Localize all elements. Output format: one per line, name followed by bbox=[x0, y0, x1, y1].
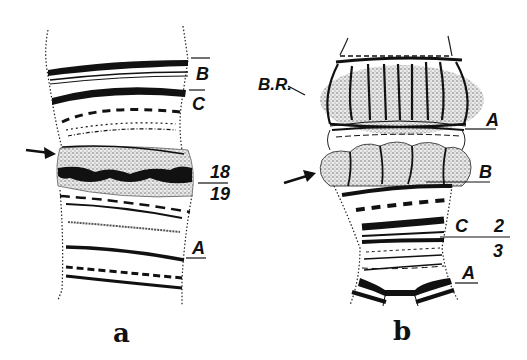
label-a-A: A bbox=[191, 238, 205, 258]
label-a-C: C bbox=[192, 94, 206, 114]
label-a-19: 19 bbox=[210, 184, 230, 204]
arrow-icon bbox=[26, 147, 56, 159]
label-b-A-top: A bbox=[485, 110, 499, 130]
label-a-B: B bbox=[196, 64, 209, 84]
label-b-3: 3 bbox=[493, 241, 503, 261]
label-b-2: 2 bbox=[493, 216, 504, 236]
panel-caption-a: a bbox=[113, 318, 130, 348]
label-a-18: 18 bbox=[210, 162, 230, 182]
panel-b-chromosome bbox=[284, 36, 510, 306]
label-b-BR: B.R. bbox=[258, 75, 292, 94]
arrow-icon bbox=[284, 170, 316, 183]
label-b-B: B bbox=[479, 162, 492, 182]
chromosome-figure: B C 18 19 A bbox=[0, 0, 527, 360]
label-b-A-bottom: A bbox=[461, 263, 475, 283]
label-b-C: C bbox=[455, 216, 469, 236]
panel-caption-b: b bbox=[393, 316, 411, 346]
